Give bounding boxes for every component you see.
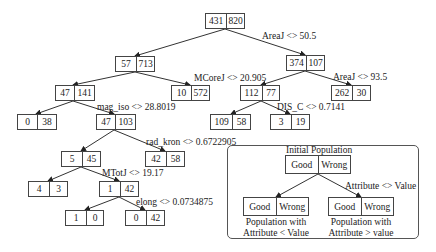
legend-right-caption-line2: Attribute > value <box>328 228 394 239</box>
tree-node-n1: 57713 <box>115 56 155 72</box>
tree-node-n14: 142 <box>99 181 139 197</box>
good-count: 1 <box>100 182 120 196</box>
tree-node-n15: 10 <box>65 210 104 226</box>
wrong-count: 30 <box>352 86 370 100</box>
good-count: 47 <box>97 115 115 129</box>
tree-node-n6: 26230 <box>331 85 371 101</box>
tree-edge <box>135 72 190 85</box>
wrong-count: 141 <box>74 86 94 100</box>
good-count: 0 <box>18 115 37 129</box>
legend-left-caption-line1: Population with <box>243 217 309 228</box>
legend-left-caption-line2: Attribute < Value <box>243 228 309 239</box>
wrong-count: 42 <box>120 182 138 196</box>
wrong-count: 820 <box>226 14 244 28</box>
tree-node-n13: 43 <box>28 181 68 197</box>
legend-right-caption-line1: Population with <box>328 217 394 228</box>
legend-good-cell: Good <box>286 156 318 173</box>
wrong-count: 38 <box>37 115 56 129</box>
legend-left-node: Good Wrong <box>243 197 309 216</box>
tree-edge <box>81 130 114 151</box>
tree-node-n10: 319 <box>270 114 310 130</box>
wrong-count: 713 <box>136 57 154 71</box>
legend-root-node: Good Wrong <box>285 155 351 174</box>
split-label: mag_iso <> 28.8019 <box>97 102 176 113</box>
good-count: 262 <box>332 86 352 100</box>
wrong-count: 58 <box>232 115 250 129</box>
good-count: 47 <box>56 86 74 100</box>
wrong-count: 572 <box>191 86 209 100</box>
split-label: AreaJ <> 93.5 <box>333 72 387 83</box>
tree-node-n4: 10572 <box>171 85 210 101</box>
tree-node-n9: 10958 <box>210 114 251 130</box>
good-count: 374 <box>287 56 306 70</box>
legend-left-caption: Population with Attribute < Value <box>243 217 309 239</box>
split-label: rad_kron <> 0.6722905 <box>146 137 236 148</box>
wrong-count: 42 <box>146 211 164 225</box>
tree-node-n3: 47141 <box>55 85 95 101</box>
legend-left-good-cell: Good <box>244 198 276 215</box>
wrong-count: 45 <box>82 152 100 166</box>
split-label: elong <> 0.0734875 <box>136 197 213 208</box>
good-count: 1 <box>66 211 86 225</box>
tree-edge <box>261 71 305 85</box>
good-count: 3 <box>271 115 291 129</box>
wrong-count: 58 <box>166 152 184 166</box>
legend-right-caption: Population with Attribute > value <box>328 217 394 239</box>
tree-node-n8: 47103 <box>96 114 136 130</box>
wrong-count: 3 <box>49 182 67 196</box>
split-label: DIS_C <> 0.7141 <box>277 102 345 113</box>
good-count: 4 <box>29 182 49 196</box>
wrong-count: 19 <box>291 115 309 129</box>
wrong-count: 103 <box>115 115 135 129</box>
wrong-count: 0 <box>86 211 103 225</box>
split-label: MCoreJ <> 20.905 <box>194 73 266 84</box>
tree-edge <box>231 101 261 114</box>
legend-split-label: Attribute <> Value <box>345 181 416 192</box>
legend-left-wrong-cell: Wrong <box>276 198 309 215</box>
tree-node-n16: 042 <box>125 210 165 226</box>
good-count: 109 <box>211 115 232 129</box>
tree-edge <box>135 29 225 56</box>
legend-right-node: Good Wrong <box>328 197 394 216</box>
tree-node-n2: 374107 <box>286 55 325 71</box>
tree-node-n12: 4258 <box>145 151 185 167</box>
tree-edge <box>48 167 81 181</box>
good-count: 0 <box>126 211 146 225</box>
good-count: 431 <box>206 14 226 28</box>
legend-right-good-cell: Good <box>329 198 361 215</box>
tree-node-root: 431820 <box>205 13 245 29</box>
tree-node-n7: 038 <box>17 114 57 130</box>
split-label: MTotJ <> 19.17 <box>102 168 164 179</box>
legend-wrong-cell: Wrong <box>318 156 351 173</box>
good-count: 57 <box>116 57 136 71</box>
tree-edge <box>85 197 119 210</box>
tree-edge <box>36 101 73 114</box>
good-count: 42 <box>146 152 166 166</box>
good-count: 5 <box>62 152 82 166</box>
good-count: 10 <box>172 86 191 100</box>
split-label: AreaJ <> 50.5 <box>262 31 316 42</box>
wrong-count: 77 <box>262 86 279 100</box>
wrong-count: 107 <box>306 56 324 70</box>
tree-node-n5: 11277 <box>240 85 280 101</box>
good-count: 112 <box>241 86 262 100</box>
tree-node-n11: 545 <box>61 151 101 167</box>
tree-edge <box>73 72 135 85</box>
legend-right-wrong-cell: Wrong <box>361 198 394 215</box>
